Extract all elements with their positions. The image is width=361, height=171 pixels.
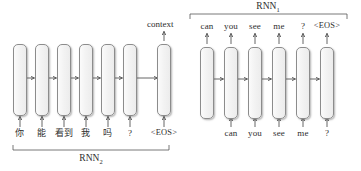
decoder-cell-3[interactable] (248, 47, 262, 119)
encoder-input-label-7: <EOS> (142, 128, 186, 138)
encoder-bracket (13, 145, 169, 150)
encoder-input-arrows (20, 117, 164, 128)
decoder-input-label-6: ? (314, 128, 340, 138)
encoder-cell-1[interactable] (13, 44, 27, 116)
decoder-group-label-subscript: 1 (276, 6, 279, 13)
encoder-group-label: RNN2 (61, 153, 121, 165)
encoder-input-label-5: 吗 (96, 128, 120, 138)
encoder-input-label-1: 你 (8, 128, 32, 138)
decoder-cell-4[interactable] (272, 47, 286, 119)
encoder-cell-4[interactable] (79, 44, 93, 116)
encoder-cell-3[interactable] (57, 44, 71, 116)
decoder-bracket (190, 14, 347, 19)
encoder-cell-2[interactable] (35, 44, 49, 116)
decoder-cell-6[interactable] (320, 47, 334, 119)
encoder-cell-5[interactable] (101, 44, 115, 116)
encoder-input-label-6: ? (120, 128, 140, 138)
context-label: context (147, 19, 174, 29)
encoder-input-label-4: 我 (74, 128, 98, 138)
decoder-cell-2[interactable] (224, 47, 238, 119)
encoder-group-label-text: RNN (79, 153, 99, 163)
diagram-canvas: 你 能 看到 我 吗 ? <EOS> context RNN2 can you … (0, 0, 361, 171)
decoder-output-arrows (207, 34, 327, 45)
decoder-cell-1[interactable] (200, 47, 214, 119)
decoder-output-label-6: <EOS> (305, 21, 349, 31)
encoder-cell-6[interactable] (123, 44, 137, 116)
encoder-group-label-subscript: 2 (99, 158, 102, 165)
encoder-cell-7[interactable] (157, 44, 171, 116)
decoder-group-label-text: RNN (256, 1, 276, 11)
decoder-group-label: RNN1 (238, 1, 298, 13)
decoder-cell-5[interactable] (296, 47, 310, 119)
